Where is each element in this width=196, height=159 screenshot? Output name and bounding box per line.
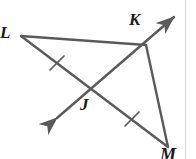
- vertex-label-M: M: [160, 146, 176, 159]
- segment-LK: [21, 36, 146, 45]
- vertex-label-J: J: [80, 96, 89, 113]
- geometry-diagram-canvas: [0, 0, 196, 159]
- geometry-figure: L K J M: [0, 0, 196, 159]
- vertex-label-L: L: [0, 24, 10, 41]
- vertex-label-K: K: [129, 11, 140, 28]
- page-edge-line: [185, 0, 186, 159]
- segment-LM: [21, 36, 168, 147]
- ray-through-J-and-K: [57, 17, 174, 118]
